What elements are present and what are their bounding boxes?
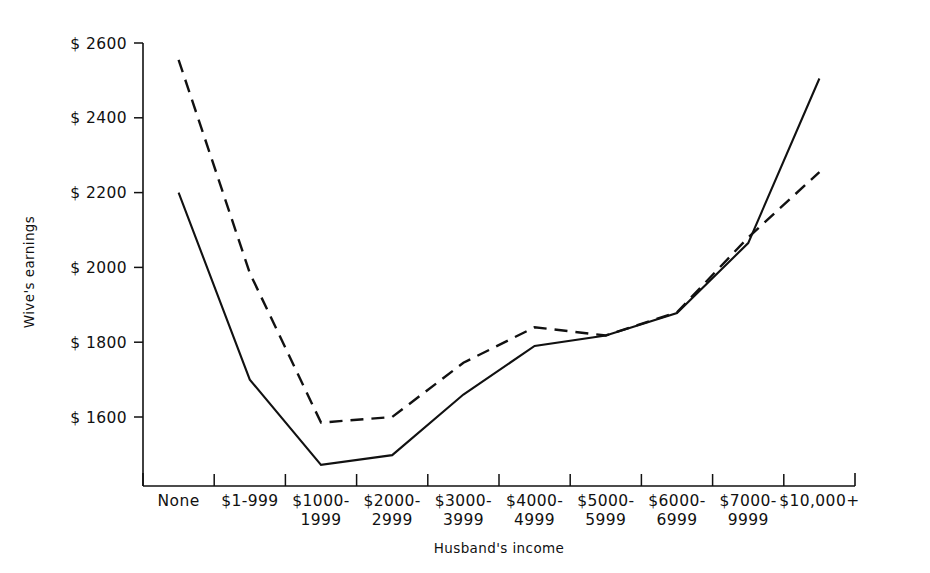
x-tick-label: $10,000+: [779, 492, 859, 510]
y-axis-title: Wive's earnings: [21, 216, 37, 329]
x-tick-label: $4000-4999: [506, 492, 563, 529]
line-chart: Wive's earnings $ 1600$ 1800$ 2000$ 2200…: [0, 0, 930, 573]
x-tick-label: $2000-2999: [364, 492, 421, 529]
x-axis: None$1-999$1000-1999$2000-2999$3000-3999…: [143, 473, 860, 529]
x-tick-label: None: [158, 492, 200, 510]
x-tick-label: $7000-9999: [720, 492, 777, 529]
x-axis-title: Husband's income: [434, 540, 565, 556]
y-axis: $ 1600$ 1800$ 2000$ 2200$ 2400$ 2600: [70, 35, 143, 487]
x-tick-group: None$1-999$1000-1999$2000-2999$3000-3999…: [158, 474, 860, 529]
series-solid: [179, 79, 820, 465]
y-tick-label: $ 2400: [70, 109, 127, 127]
chart-figure: Wive's earnings $ 1600$ 1800$ 2000$ 2200…: [0, 0, 930, 573]
x-tick-label: $1-999: [221, 492, 278, 510]
y-tick-label: $ 2200: [70, 184, 127, 202]
svg-text:Wive's earnings: Wive's earnings: [21, 216, 37, 329]
y-tick-label: $ 1600: [70, 409, 127, 427]
series-dashed: [179, 60, 820, 423]
x-tick-label: $6000-6999: [648, 492, 705, 529]
x-tick-label: $3000-3999: [435, 492, 492, 529]
x-tick-label: $5000-5999: [577, 492, 634, 529]
series-group: [179, 60, 820, 465]
y-tick-label: $ 2000: [70, 259, 127, 277]
y-tick-label: $ 2600: [70, 35, 127, 53]
x-tick-label: $1000-1999: [292, 492, 349, 529]
y-tick-group: $ 1600$ 1800$ 2000$ 2200$ 2400$ 2600: [70, 35, 143, 427]
y-tick-label: $ 1800: [70, 334, 127, 352]
